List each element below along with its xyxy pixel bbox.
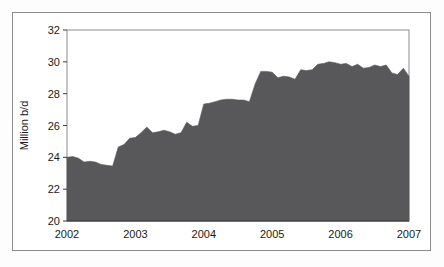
y-axis-tick-label: 24 [48, 151, 60, 163]
y-axis-tick-label: 26 [48, 120, 60, 132]
y-axis-tick-label: 20 [48, 215, 60, 227]
x-axis-tick-label: 2003 [123, 228, 147, 240]
y-axis-tick-label: 28 [48, 88, 60, 100]
area-chart: 20222426283032200220032004200520062007Mi… [0, 0, 444, 267]
x-axis-tick-label: 2006 [328, 228, 352, 240]
y-axis-tick-label: 32 [48, 24, 60, 36]
x-axis-tick-label: 2002 [55, 228, 79, 240]
chart-figure: 20222426283032200220032004200520062007Mi… [0, 0, 444, 267]
x-axis-tick-label: 2005 [260, 228, 284, 240]
y-axis-tick-label: 30 [48, 56, 60, 68]
y-axis-title: Million b/d [18, 101, 30, 151]
x-axis-tick-label: 2007 [397, 228, 421, 240]
x-axis-tick-label: 2004 [192, 228, 216, 240]
y-axis-tick-label: 22 [48, 183, 60, 195]
